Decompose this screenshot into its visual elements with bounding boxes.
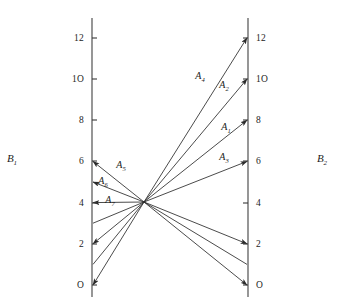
tick-label: 4 (256, 198, 261, 208)
tick-label: 12 (74, 33, 84, 43)
ray-label-a5: A5 (115, 159, 126, 172)
ray-right-segment (144, 202, 247, 285)
right-axis (243, 18, 248, 297)
ray-right-segment (144, 79, 247, 202)
ray-right-segment (144, 202, 247, 264)
ray-a1 (93, 120, 247, 264)
tick-label: 12 (256, 33, 266, 43)
tick-labels-group: 121O8642O121O8642O (72, 33, 268, 290)
tick-label: 4 (79, 198, 84, 208)
ray-right-segment (144, 202, 247, 244)
ray-left-segment (93, 202, 144, 264)
tick-label: 1O (72, 74, 84, 84)
ray-label-a1: A1 (220, 121, 230, 134)
tick-label: O (77, 280, 84, 290)
ray-right-segment (144, 161, 247, 202)
ray-right-segment (144, 120, 247, 202)
tick-label: 2 (79, 239, 84, 249)
ray-label-a2: A2 (218, 79, 229, 92)
tick-label: 6 (256, 156, 261, 166)
tick-label: 1O (256, 74, 268, 84)
ray-right-segment (144, 38, 247, 202)
ray-label-a7: A7 (104, 194, 115, 207)
tick-label: O (256, 280, 263, 290)
nomogram-figure: 121O8642O121O8642O A1A2A3A4A5A6A7 B1B2 (0, 0, 338, 300)
left-axis-name: B1 (7, 152, 17, 167)
ray-left-segment (93, 202, 144, 285)
ray-label-a3: A3 (218, 151, 229, 164)
ray-left-segment (93, 202, 144, 223)
ray-label-a4: A4 (194, 70, 205, 83)
tick-label: 8 (79, 115, 84, 125)
ray-a7 (93, 202, 247, 285)
tick-label: 6 (79, 156, 84, 166)
ray-a2 (93, 79, 247, 285)
ray-left-segment (93, 202, 144, 203)
ray-left-segment (93, 202, 144, 244)
ray-label-a6: A6 (97, 175, 108, 188)
tick-label: 8 (256, 115, 261, 125)
left-axis (92, 18, 97, 297)
right-axis-name: B2 (317, 152, 328, 167)
tick-label: 2 (256, 239, 261, 249)
